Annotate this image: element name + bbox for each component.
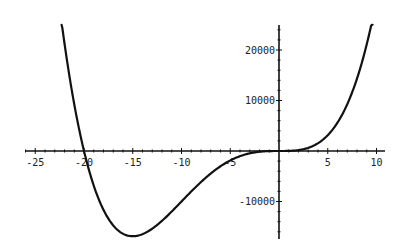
y-tick-label: 10000 — [245, 95, 275, 106]
x-tick-label: -20 — [75, 157, 93, 168]
x-tick-label: -15 — [124, 157, 142, 168]
x-tick-label: 5 — [325, 157, 331, 168]
function-curve — [62, 25, 373, 236]
function-plot: -25-20-15-10-5510 -100001000020000 — [0, 0, 408, 252]
x-tick-label: -10 — [172, 157, 190, 168]
y-tick-label: 20000 — [245, 45, 275, 56]
x-tick-label: 10 — [370, 157, 382, 168]
y-tick-label: -10000 — [239, 196, 275, 207]
x-tick-label: -25 — [26, 157, 44, 168]
